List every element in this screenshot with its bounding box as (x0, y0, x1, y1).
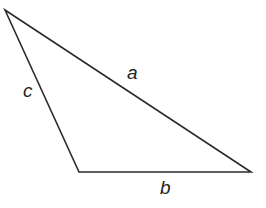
side-label-a: a (127, 63, 138, 82)
side-label-b: b (160, 178, 171, 197)
triangle-shape (0, 0, 266, 208)
side-label-c: c (23, 81, 33, 100)
triangle-diagram: a c b (0, 0, 266, 208)
